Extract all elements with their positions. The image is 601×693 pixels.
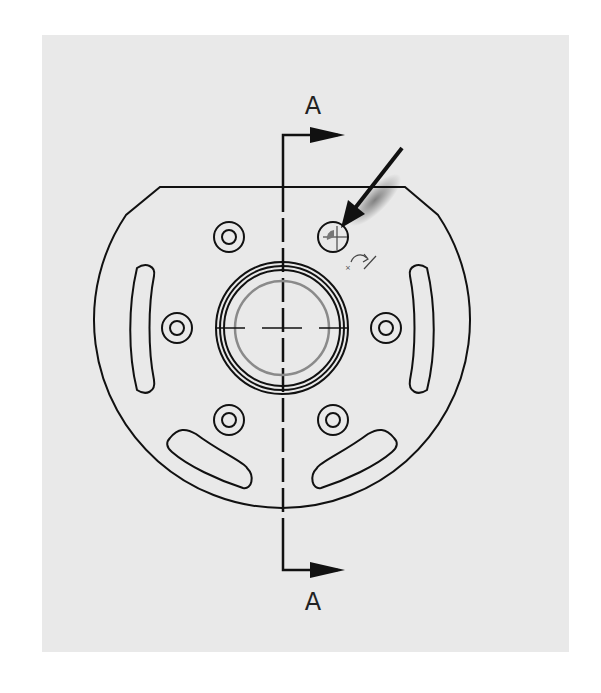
section-label-top: A (298, 92, 328, 120)
slot-right[interactable] (410, 265, 434, 393)
section-arrow-bottom (310, 562, 345, 578)
svg-text:×: × (345, 264, 351, 272)
hole-right[interactable] (371, 313, 401, 343)
section-label-bottom: A (298, 588, 328, 616)
hole-lower-left[interactable] (214, 405, 244, 435)
slot-left[interactable] (130, 265, 154, 393)
pointer-arrow-icon (341, 148, 408, 233)
section-arrow-top (310, 127, 345, 143)
section-line[interactable] (283, 135, 338, 570)
slot-lower-right[interactable] (312, 430, 396, 488)
hole-upper-left[interactable] (214, 222, 244, 252)
rotate-cursor-icon: × (345, 254, 376, 272)
slot-lower-left[interactable] (167, 430, 251, 488)
hole-lower-right[interactable] (318, 405, 348, 435)
hole-left[interactable] (162, 313, 192, 343)
